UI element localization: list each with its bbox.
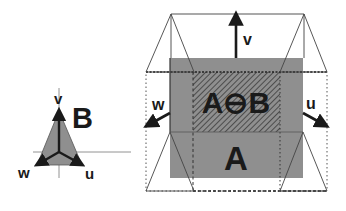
set-a-erosion-figure: v w u A⊖B A <box>146 14 327 191</box>
erosion-label: A⊖B <box>202 86 270 119</box>
v-label: v <box>243 31 252 48</box>
w-axis-label: w <box>17 164 30 181</box>
w-label: w <box>151 96 165 113</box>
b-label: B <box>72 102 93 134</box>
u-axis-label: u <box>85 165 94 182</box>
morphology-diagram: v w u B v w u A <box>0 0 346 211</box>
w-translation-arrow <box>150 113 170 124</box>
u-translation-arrow <box>303 113 323 124</box>
v-axis-label: v <box>54 90 63 107</box>
structuring-element-b: v w u B <box>17 88 131 182</box>
set-a-label: A <box>224 140 248 177</box>
u-label: u <box>306 95 316 112</box>
